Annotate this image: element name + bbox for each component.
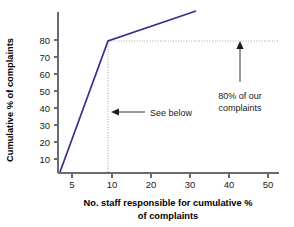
x-tick-label-5: 5 [69,179,74,190]
y-tick-label-50: 50 [39,86,50,97]
x-tick-label-10: 10 [107,179,118,190]
x-axis-title-line2: of complaints [138,211,198,221]
see-below-annotation-label: See below [150,108,193,118]
eighty-percent-annotation-line2: complaints [218,103,262,113]
x-tick-label-50: 50 [263,179,274,190]
y-tick-label-30: 30 [39,120,50,131]
y-tick-label-80: 80 [39,35,50,46]
y-tick-label-40: 40 [39,103,50,114]
eighty-percent-annotation-line1: 80% of our [218,91,262,101]
chart-container: Cumulative % of complaints 80 70 60 50 4… [0,0,294,227]
y-axis-title: Cumulative % of complaints [5,38,15,162]
y-tick-label-60: 60 [39,69,50,80]
pareto-chart: Cumulative % of complaints 80 70 60 50 4… [0,0,294,227]
x-tick-label-20: 20 [146,179,157,190]
x-axis-title-line1: No. staff responsible for cumulative % [84,198,254,208]
y-tick-label-70: 70 [39,52,50,63]
x-tick-label-30: 30 [185,179,196,190]
y-tick-label-20: 20 [39,137,50,148]
x-tick-label-40: 40 [224,179,235,190]
y-tick-label-10: 10 [39,154,50,165]
